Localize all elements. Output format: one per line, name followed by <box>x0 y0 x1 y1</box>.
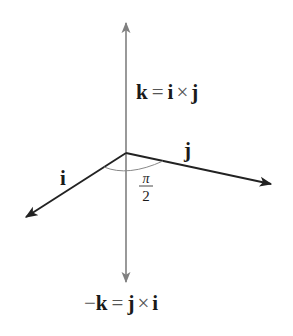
angle-numerator: π <box>142 171 150 186</box>
k-equation-label: k=i×j <box>136 80 198 104</box>
i-vector-arrow <box>26 153 126 217</box>
angle-denominator: 2 <box>142 188 150 204</box>
j-vector-label: j <box>183 138 191 162</box>
neg-k-equation-label: −k=j×i <box>84 291 158 315</box>
cross-product-diagram: k=i×j i j π 2 −k=j×i <box>0 0 293 336</box>
i-vector-label: i <box>60 166 66 190</box>
